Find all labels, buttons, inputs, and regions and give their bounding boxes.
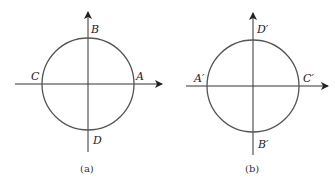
label-b-top: D′ (256, 23, 269, 36)
figure-b: D′ C′ A′ B′ (b) (186, 13, 328, 174)
label-a-bottom: D (92, 134, 102, 147)
label-a-left: C (31, 70, 40, 83)
diagram-canvas: B A C D (a) D′ C′ A′ B′ (b) (0, 0, 335, 182)
label-a-top: B (90, 23, 99, 36)
caption-b: (b) (245, 163, 259, 174)
label-b-left: A′ (193, 72, 205, 85)
caption-a: (a) (80, 163, 94, 174)
label-b-bottom: B′ (257, 138, 269, 151)
label-a-right: A (135, 70, 144, 83)
label-b-right: C′ (303, 72, 314, 85)
figure-a: B A C D (a) (15, 12, 162, 174)
